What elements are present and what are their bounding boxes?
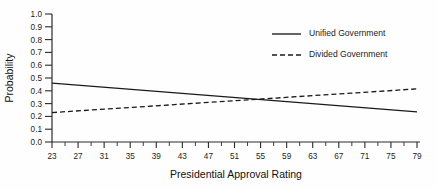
x-tick-label: 63 [308,152,318,161]
series-group [52,83,417,112]
y-tick-label: 0.2 [31,112,43,121]
x-tick-label: 23 [47,152,57,161]
legend-label-0: Unified Government [309,28,386,38]
chart-container: 0.00.10.20.30.40.50.60.70.80.91.0 232731… [0,0,437,190]
x-tick-label: 47 [204,152,214,161]
y-axis-title: Probability [3,53,15,103]
x-tick-label: 71 [360,152,370,161]
y-tick-label: 0.9 [31,23,43,32]
line-chart: 0.00.10.20.30.40.50.60.70.80.91.0 232731… [0,0,437,190]
x-tick-label: 51 [230,152,240,161]
x-tick-group: 232731353943475155596367717579 [47,142,422,161]
y-tick-label: 0.8 [31,36,43,45]
legend-label-1: Divided Government [309,49,388,59]
x-tick-label: 59 [282,152,292,161]
x-tick-label: 79 [412,152,422,161]
y-tick-label: 0.7 [31,48,43,57]
y-tick-label: 1.0 [31,10,43,19]
y-tick-label: 0.6 [31,61,43,70]
y-tick-label: 0.5 [31,74,43,83]
x-tick-label: 67 [334,152,344,161]
series-line-divided-government [52,89,417,113]
x-tick-label: 43 [178,152,188,161]
x-tick-label: 27 [74,152,84,161]
x-tick-label: 75 [386,152,396,161]
x-axis-title: Presidential Approval Rating [170,168,302,180]
y-tick-label: 0.3 [31,100,43,109]
y-tick-label: 0.4 [31,87,43,96]
x-tick-label: 55 [256,152,266,161]
series-line-unified-government [52,83,417,112]
legend: Unified GovernmentDivided Government [272,28,388,59]
x-tick-label: 35 [126,152,136,161]
y-tick-label: 0.1 [31,125,43,134]
y-tick-label: 0.0 [31,138,43,147]
y-tick-group: 0.00.10.20.30.40.50.60.70.80.91.0 [31,10,52,147]
x-tick-label: 39 [152,152,162,161]
x-tick-label: 31 [100,152,110,161]
